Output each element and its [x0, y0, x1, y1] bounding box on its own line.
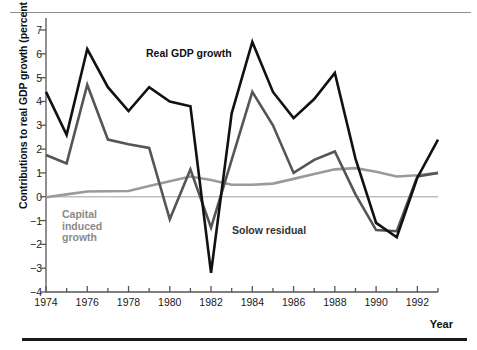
y-tick-label: 6 [22, 48, 42, 60]
figure-panel: Contributions to real GDP growth (percen… [0, 0, 477, 350]
x-tick-label: 1976 [76, 296, 99, 308]
y-tick-label: −2 [22, 238, 42, 250]
y-tick-label: −1 [22, 215, 42, 227]
annotation-capital-line-1: Capital [62, 209, 102, 221]
x-tick-label: 1990 [364, 296, 387, 308]
chart-canvas [46, 30, 438, 292]
y-tick-label: −3 [22, 262, 42, 274]
y-tick-label: 5 [22, 72, 42, 84]
annotation-capital-induced-growth: Capital induced growth [62, 209, 102, 244]
x-tick-label: 1986 [282, 296, 305, 308]
bottom-rule [22, 338, 467, 341]
x-tick-label: 1988 [323, 296, 346, 308]
annotation-capital-line-3: growth [62, 232, 102, 244]
x-tick-label: 1978 [117, 296, 140, 308]
y-axis-tick-labels: 76543210−1−2−3−4 [18, 30, 42, 292]
annotation-real-gdp-growth: Real GDP growth [146, 48, 232, 60]
x-tick-label: 1982 [199, 296, 222, 308]
annotation-solow-residual: Solow residual [232, 225, 306, 237]
y-tick-label: 1 [22, 167, 42, 179]
y-tick-label: 3 [22, 119, 42, 131]
top-rule [10, 12, 471, 13]
x-tick-label: 1984 [241, 296, 264, 308]
x-tick-label: 1980 [158, 296, 181, 308]
plot-area [46, 30, 438, 292]
y-tick-label: 4 [22, 95, 42, 107]
y-tick-label: 0 [22, 191, 42, 203]
x-tick-label: 1974 [34, 296, 57, 308]
y-tick-label: 7 [22, 24, 42, 36]
x-axis-tick-labels: 1974197619781980198219841986198819901992 [46, 296, 438, 312]
x-axis-label: Year [430, 318, 453, 330]
x-tick-label: 1992 [406, 296, 429, 308]
y-tick-label: 2 [22, 143, 42, 155]
